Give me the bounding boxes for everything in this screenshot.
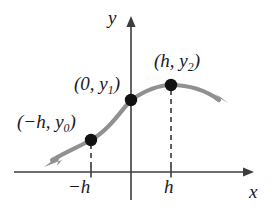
point-h-y2-label-sub: 2 <box>188 61 194 74</box>
point-h-y2-label: (h, y2) <box>154 51 200 70</box>
point-zero-y1-label-prefix: (0, y <box>74 73 108 94</box>
point-neg-h-y0-label-sub: 0 <box>64 122 70 135</box>
y-axis-arrowhead <box>126 16 135 27</box>
point-neg-h-y0-marker[interactable] <box>85 134 97 146</box>
point-h-y2-label-suffix: ) <box>194 50 200 71</box>
x-axis-label: x <box>249 182 257 201</box>
point-zero-y1-label-suffix: ) <box>114 73 120 94</box>
point-h-y2-label-prefix: (h, y <box>154 50 188 71</box>
point-h-y2-marker[interactable] <box>165 79 177 91</box>
graph-figure: y x −h h (−h, y0) (0, y1) (h, y2) <box>0 0 272 210</box>
tick-label-pos-h: h <box>164 177 174 196</box>
graph-canvas <box>0 0 272 210</box>
point-zero-y1-marker[interactable] <box>125 94 137 106</box>
x-axis-arrowhead <box>243 167 254 176</box>
tick-label-neg-h: −h <box>68 177 90 196</box>
point-zero-y1-label-sub: 1 <box>108 84 114 97</box>
curve-arrowhead-left <box>44 155 62 167</box>
y-axis-label: y <box>108 8 116 27</box>
x-axis <box>14 167 254 176</box>
point-neg-h-y0-label: (−h, y0) <box>17 112 76 131</box>
point-zero-y1-label: (0, y1) <box>74 74 120 93</box>
point-neg-h-y0-label-prefix: (−h, y <box>17 111 64 132</box>
point-neg-h-y0-label-suffix: ) <box>69 111 75 132</box>
